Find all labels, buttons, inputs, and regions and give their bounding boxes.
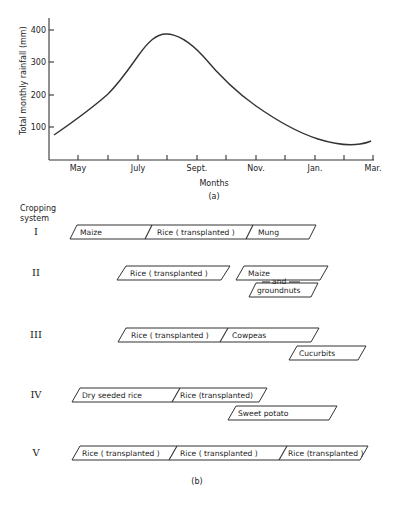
y-axis-ticks: 400300200100 — [31, 26, 54, 132]
crop-label: Rice ( transplanted ) — [131, 331, 209, 340]
y-tick-label: 400 — [31, 26, 46, 35]
rainfall-curve — [54, 34, 371, 145]
cropping-system-header-line1: Cropping — [20, 204, 56, 213]
x-axis-title: Months — [199, 179, 228, 188]
cropping-system-row-ii: IIRice ( transplanted )Maizegroundnutsan… — [32, 266, 328, 297]
rainfall-chart-panel: 400300200100 MayJulySept.Nov.Jan.Mar. To… — [19, 18, 381, 201]
crop-label: Rice ( transplanted ) — [130, 269, 208, 278]
cropping-system-header-line2: system — [20, 214, 49, 223]
crop-label: groundnuts — [257, 286, 300, 295]
connector-label: and — [272, 277, 286, 286]
x-axis-ticks — [78, 155, 373, 160]
crop-label: Dry seeded rice — [82, 391, 142, 400]
crop-label: Mung — [258, 228, 279, 237]
crop-label: Rice (transplanted) — [180, 391, 253, 400]
figure-canvas: 400300200100 MayJulySept.Nov.Jan.Mar. To… — [0, 0, 393, 513]
y-tick-label: 300 — [31, 58, 46, 67]
cropping-system-row-iii: IIIRice ( transplanted )CowpeasCucurbits — [30, 328, 366, 360]
crop-label: Maize — [248, 269, 270, 278]
crop-label: Rice ( transplanted ) — [82, 449, 160, 458]
y-axis-title: Total monthly rainfall (mm) — [19, 26, 28, 136]
x-tick-label: May — [70, 164, 87, 173]
system-numeral: II — [32, 267, 40, 278]
x-tick-label: Nov. — [247, 164, 265, 173]
crop-label: Cowpeas — [232, 331, 266, 340]
crop-label: Cucurbits — [299, 349, 335, 358]
cropping-system-row-iv: IVDry seeded riceRice (transplanted)Swee… — [30, 388, 337, 420]
y-tick-label: 100 — [31, 123, 46, 132]
crop-label: Rice (transplanted ) — [288, 449, 363, 458]
system-numeral: V — [31, 447, 40, 458]
crop-label: Rice ( transplanted ) — [180, 449, 258, 458]
rainfall-and-cropping-figure: 400300200100 MayJulySept.Nov.Jan.Mar. To… — [0, 0, 393, 513]
cropping-system-panel: Cropping system IMaizeRice ( transplante… — [20, 204, 368, 486]
x-tick-label: Jan. — [307, 164, 323, 173]
system-numeral: IV — [30, 389, 42, 400]
cropping-system-rows: IMaizeRice ( transplanted )MungIIRice ( … — [30, 225, 368, 460]
cropping-system-row-i: IMaizeRice ( transplanted )Mung — [34, 225, 316, 239]
x-tick-label: July — [130, 164, 146, 173]
panel-a-caption: (a) — [208, 192, 219, 201]
crop-label: Maize — [80, 228, 102, 237]
cropping-system-row-v: VRice ( transplanted )Rice ( transplante… — [31, 446, 368, 460]
y-tick-label: 200 — [31, 91, 46, 100]
x-tick-label: Sept. — [187, 164, 208, 173]
crop-label: Rice ( transplanted ) — [157, 228, 235, 237]
panel-b-caption: (b) — [191, 477, 202, 486]
x-axis-tick-labels: MayJulySept.Nov.Jan.Mar. — [70, 164, 382, 173]
system-numeral: III — [30, 329, 42, 340]
x-tick-label: Mar. — [365, 164, 382, 173]
crop-label: Sweet potato — [238, 409, 289, 418]
system-numeral: I — [34, 226, 38, 237]
